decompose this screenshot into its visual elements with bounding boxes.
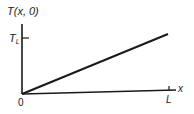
x-axis-label: x [177, 83, 184, 94]
x-axis [22, 90, 176, 94]
data-line [22, 34, 168, 94]
y-tick-label: TL [9, 32, 20, 45]
origin-label: 0 [18, 97, 24, 108]
x-tick-label: L [166, 94, 172, 105]
y-axis-label: T(x, 0) [7, 5, 39, 17]
diagram-canvas: T(x, 0) TL 0 L x [0, 0, 194, 114]
